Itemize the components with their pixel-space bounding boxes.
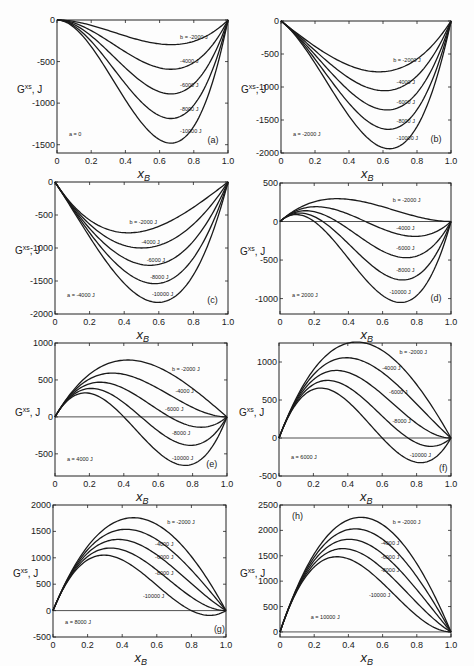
x-axis-label: xB	[134, 650, 148, 666]
y-tick-label: -1500	[32, 140, 55, 150]
y-axis-label: Gxs, J	[15, 244, 40, 256]
y-tick-label: 1000	[33, 338, 53, 348]
x-tick-label: 0.6	[376, 479, 389, 489]
y-tick-label: 1500	[258, 551, 278, 561]
y-tick-label: -1000	[32, 98, 55, 108]
series-label: -10000 J	[410, 452, 432, 458]
y-tick-label: -500	[35, 449, 53, 459]
y-tick-label: 500	[263, 602, 278, 612]
a-parameter-label: a = -4000 J	[67, 292, 95, 298]
x-tick-label: 0.8	[410, 479, 423, 489]
series-label: b = -2000 J	[172, 366, 200, 372]
y-axis-label: Gxs, J	[17, 83, 42, 95]
x-tick-label: 1.0	[222, 317, 235, 327]
series-label: -8000 J	[393, 418, 412, 424]
panel-a: 00.20.40.60.81.00-500-1000-1500Gxs, JxBb…	[17, 15, 234, 183]
series-label: -8000 J	[180, 106, 199, 112]
panel-h: 00.20.40.60.81.025002000150010005000Gxs,…	[240, 500, 457, 666]
x-tick-label: 0.8	[188, 156, 201, 166]
x-tick-label: 0.6	[153, 156, 166, 166]
series-label: -4000 J	[175, 388, 194, 394]
curve	[53, 529, 226, 610]
x-tick-label: 0.6	[152, 479, 165, 489]
x-tick-label: 0.6	[376, 640, 389, 650]
series-label: -10000 J	[152, 291, 174, 297]
curve	[280, 213, 451, 280]
x-tick-label: 0.2	[83, 479, 96, 489]
y-axis-label: Gxs, J	[240, 567, 265, 579]
y-tick-label: 2000	[258, 525, 278, 535]
series-label: -6000 J	[381, 554, 400, 560]
x-tick-label: 0.2	[83, 317, 96, 327]
y-tick-label: 2000	[31, 500, 51, 510]
curve	[279, 358, 451, 438]
x-tick-label: 0	[276, 479, 281, 489]
x-tick-label: 0.4	[116, 640, 129, 650]
y-tick-label: 0	[50, 15, 55, 25]
series-label: -4000 J	[381, 540, 400, 546]
curve	[55, 393, 227, 466]
series-label: b = -2000 J	[399, 349, 427, 355]
x-axis-label: xB	[137, 166, 151, 183]
panel-d: 00.20.40.60.81.05000-500-1000Gxs, JxBb =…	[240, 178, 457, 344]
y-tick-label: -500	[33, 632, 51, 642]
y-axis-label: Gxs, J	[241, 83, 266, 95]
x-tick-label: 0.2	[81, 640, 94, 650]
x-tick-label: 0.4	[342, 479, 355, 489]
curve	[280, 215, 451, 303]
series-label: -6000 J	[155, 554, 174, 560]
series-label: -10000 J	[389, 289, 411, 295]
y-axis-label: Gxs, J	[15, 406, 40, 418]
x-tick-label: 0	[52, 479, 57, 489]
series-label: -8000 J	[155, 570, 174, 576]
series-label: -10000 J	[180, 128, 202, 134]
y-tick-label: 1000	[31, 553, 51, 563]
x-axis-label: xB	[360, 650, 374, 666]
series-label: -8000 J	[172, 430, 191, 436]
series-label: -6000 J	[147, 257, 166, 263]
x-tick-label: 0.2	[309, 156, 322, 166]
y-tick-label: -1500	[256, 115, 279, 125]
x-tick-label: 0.6	[377, 156, 390, 166]
series-label: -8000 J	[397, 118, 416, 124]
x-tick-label: 0.8	[187, 317, 200, 327]
series-label: -4000 J	[155, 541, 174, 547]
y-tick-label: -500	[259, 471, 277, 481]
panel-f: 00.20.40.60.81.010005000-500Gxs, JxBb = …	[239, 342, 457, 506]
series-label: -6000 J	[396, 245, 415, 251]
curve	[55, 182, 228, 284]
x-axis-label: xB	[359, 489, 373, 506]
x-axis-label: xB	[135, 489, 149, 506]
y-tick-label: -500	[261, 49, 279, 59]
series-label: -6000 J	[180, 82, 199, 88]
series-label: -6000 J	[389, 389, 408, 395]
panel-c: 00.20.40.60.81.00-500-1000-1500-2000Gxs,…	[15, 177, 234, 344]
a-parameter-label: a = 0	[69, 131, 81, 137]
x-tick-label: 0.8	[186, 479, 199, 489]
x-tick-label: 0	[50, 640, 55, 650]
x-tick-label: 0	[278, 156, 283, 166]
y-tick-label: 500	[38, 375, 53, 385]
y-tick-label: 1000	[257, 357, 277, 367]
y-axis-label: Gxs, J	[13, 567, 38, 579]
series-label: -4000 J	[142, 239, 161, 245]
curve	[57, 20, 228, 94]
panel-id: (g)	[214, 624, 225, 634]
series-label: b = -2000 J	[393, 57, 421, 63]
y-tick-label: 0	[273, 627, 278, 637]
y-tick-label: 1500	[31, 526, 51, 536]
panel-id: (f)	[439, 463, 448, 473]
x-tick-label: 0	[277, 317, 282, 327]
y-tick-label: -1000	[255, 294, 278, 304]
series-label: -8000 J	[381, 567, 400, 573]
series-label: b = -2000 J	[393, 197, 421, 203]
curve	[279, 370, 451, 438]
y-axis-label: Gxs, J	[239, 406, 264, 418]
series-label: -4000 J	[397, 79, 416, 85]
y-tick-label: 0	[273, 217, 278, 227]
x-tick-label: 0.8	[185, 640, 198, 650]
curve	[55, 182, 228, 233]
x-tick-label: 1.0	[445, 479, 458, 489]
x-tick-label: 0.4	[342, 317, 355, 327]
x-tick-label: 0.4	[343, 156, 356, 166]
